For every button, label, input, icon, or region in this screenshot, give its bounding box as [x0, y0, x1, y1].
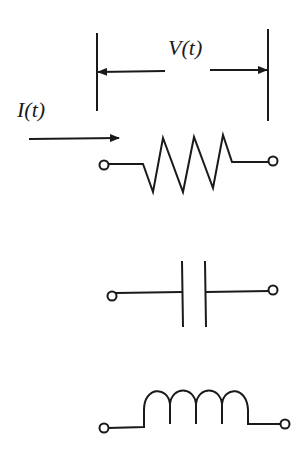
capacitor-right-lead	[206, 291, 269, 292]
capacitor-symbol	[108, 261, 278, 327]
resistor-symbol	[100, 135, 278, 192]
capacitor-right-terminal	[269, 286, 278, 295]
voltage-left-arrow-icon	[98, 71, 165, 72]
resistor-right-terminal	[269, 157, 278, 166]
inductor-coil-icon	[108, 391, 280, 429]
current-arrow-icon	[29, 138, 119, 139]
current-indicator: I(t)	[16, 97, 119, 139]
resistor-zigzag-icon	[108, 135, 269, 192]
capacitor-right-plate	[205, 261, 206, 327]
resistor-left-terminal	[100, 161, 109, 170]
capacitor-left-lead	[116, 292, 182, 293]
current-label: I(t)	[16, 97, 45, 122]
inductor-left-terminal	[100, 424, 109, 433]
circuit-diagram: V(t) I(t)	[0, 0, 299, 465]
capacitor-left-plate	[182, 261, 183, 327]
inductor-right-terminal	[281, 420, 290, 429]
voltage-indicator: V(t)	[97, 29, 268, 121]
voltage-label: V(t)	[168, 35, 202, 60]
capacitor-left-terminal	[108, 292, 117, 301]
inductor-symbol	[100, 391, 290, 433]
